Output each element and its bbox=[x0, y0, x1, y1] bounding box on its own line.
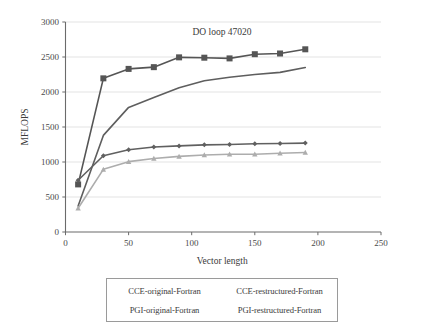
marker-diamond bbox=[177, 143, 182, 148]
x-axis-title: Vector length bbox=[197, 256, 248, 266]
y-tick-label: 1000 bbox=[41, 157, 60, 167]
y-tick-label: 3000 bbox=[41, 17, 60, 27]
y-tick-labels: 050010001500200025003000 bbox=[41, 17, 60, 237]
marker-diamond bbox=[303, 141, 308, 146]
y-tick-label: 0 bbox=[55, 227, 60, 237]
marker-diamond bbox=[252, 141, 257, 146]
x-tick-label: 200 bbox=[311, 238, 325, 248]
legend-row: CCE-original-Fortran CCE-restructured-Fo… bbox=[107, 281, 337, 300]
x-tick-label: 150 bbox=[248, 238, 262, 248]
chart-figure: 050010001500200025003000 050100150200250… bbox=[0, 0, 424, 331]
marker-square bbox=[201, 55, 207, 61]
y-tick-label: 1500 bbox=[41, 122, 60, 132]
series-cce-original-fortran bbox=[75, 46, 308, 187]
series-line bbox=[78, 49, 305, 184]
marker-diamond bbox=[202, 142, 207, 147]
y-tick-label: 2500 bbox=[41, 52, 60, 62]
x-tick-label: 100 bbox=[185, 238, 199, 248]
gridlines-group bbox=[66, 22, 382, 197]
series-line bbox=[78, 68, 305, 207]
y-tick-label: 2000 bbox=[41, 87, 60, 97]
chart-title: DO loop 47020 bbox=[192, 27, 251, 37]
marker-square bbox=[151, 64, 157, 70]
marker-square bbox=[176, 54, 182, 60]
marker-square bbox=[227, 55, 233, 61]
series-line bbox=[78, 153, 305, 209]
x-tick-label: 50 bbox=[124, 238, 134, 248]
x-tick-labels: 050100150200250 bbox=[63, 238, 388, 248]
y-axis-title: MFLOPS bbox=[20, 109, 30, 146]
x-tick-label: 250 bbox=[374, 238, 388, 248]
series-cce-restructured-fortran bbox=[78, 68, 305, 207]
legend-item-pgi-original: PGI-original-Fortran bbox=[107, 305, 222, 315]
marker-diamond bbox=[227, 142, 232, 147]
marker-square bbox=[100, 75, 106, 81]
marker-diamond bbox=[151, 144, 156, 149]
marker-diamond bbox=[126, 147, 131, 152]
legend-item-cce-restructured: CCE-restructured-Fortran bbox=[222, 286, 337, 296]
legend-row: PGI-original-Fortran PGI-restructured-Fo… bbox=[107, 300, 337, 319]
series-pgi-restructured-fortran bbox=[75, 150, 308, 211]
legend-item-pgi-restructured: PGI-restructured-Fortran bbox=[222, 305, 337, 315]
y-tick-label: 500 bbox=[46, 192, 60, 202]
marker-square bbox=[126, 66, 132, 72]
marker-square bbox=[302, 46, 308, 52]
marker-diamond bbox=[278, 141, 283, 146]
legend-item-cce-original: CCE-original-Fortran bbox=[107, 286, 222, 296]
legend-box: CCE-original-Fortran CCE-restructured-Fo… bbox=[106, 278, 338, 322]
marker-square bbox=[252, 51, 258, 57]
x-tick-label: 0 bbox=[63, 238, 68, 248]
marker-square bbox=[277, 51, 283, 57]
series-group bbox=[75, 46, 308, 210]
